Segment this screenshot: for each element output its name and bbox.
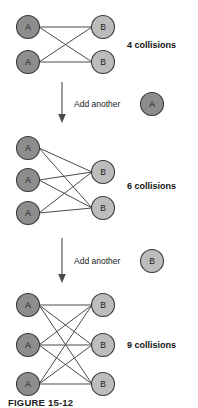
panel-6-collisions: A A A B B 6 collisions bbox=[17, 137, 177, 225]
transition-add-a: Add another A bbox=[58, 82, 163, 123]
node-b-1-2: B bbox=[92, 51, 115, 74]
node-label: B bbox=[100, 203, 106, 213]
node-label: A bbox=[25, 143, 31, 153]
node-label: A bbox=[25, 57, 31, 67]
node-label: B bbox=[100, 57, 106, 67]
edge-group-panel-1 bbox=[39, 27, 92, 62]
node-b-3-3: B bbox=[92, 373, 115, 396]
node-a-1-1: A bbox=[17, 16, 40, 39]
node-a-1-2: A bbox=[17, 51, 40, 74]
node-label: A bbox=[25, 300, 31, 310]
collisions-label-panel-1: 4 collisions bbox=[127, 40, 176, 50]
node-label: A bbox=[25, 379, 31, 389]
node-label: B bbox=[100, 300, 106, 310]
node-label: A bbox=[149, 99, 155, 109]
node-label: A bbox=[25, 22, 31, 32]
node-a-2-2: A bbox=[17, 169, 40, 192]
edge-group-panel-2 bbox=[39, 148, 92, 213]
transition-label-add-a: Add another bbox=[74, 99, 120, 109]
figure-caption: FIGURE 15-12 bbox=[8, 397, 73, 408]
collisions-label-panel-3: 9 collisions bbox=[127, 340, 176, 350]
node-label: B bbox=[100, 379, 106, 389]
node-b-3-2: B bbox=[92, 334, 115, 357]
transition-add-b: Add another B bbox=[58, 238, 163, 283]
node-label: A bbox=[25, 340, 31, 350]
node-label: A bbox=[25, 208, 31, 218]
node-label: B bbox=[100, 22, 106, 32]
node-label: B bbox=[100, 167, 106, 177]
node-b-2-1: B bbox=[92, 161, 115, 184]
transition-label-add-b: Add another bbox=[74, 256, 120, 266]
collisions-label-panel-2: 6 collisions bbox=[127, 181, 176, 191]
node-b-2-2: B bbox=[92, 197, 115, 220]
edge-group-panel-3 bbox=[39, 305, 92, 384]
node-a-3-1: A bbox=[17, 294, 40, 317]
node-a-2-3: A bbox=[17, 202, 40, 225]
figure-container: A A B B 4 collisions Add another bbox=[0, 0, 198, 408]
node-label: A bbox=[25, 175, 31, 185]
floating-node-a: A bbox=[141, 93, 164, 116]
node-a-2-1: A bbox=[17, 137, 40, 160]
collision-diagram: A A B B 4 collisions Add another bbox=[0, 0, 198, 408]
node-label: B bbox=[149, 256, 155, 266]
node-a-3-2: A bbox=[17, 334, 40, 357]
panel-9-collisions: A A A B B B 9 collisions bbox=[17, 294, 177, 396]
floating-node-b: B bbox=[141, 250, 164, 273]
node-label: B bbox=[100, 340, 106, 350]
node-a-3-3: A bbox=[17, 373, 40, 396]
node-b-1-1: B bbox=[92, 16, 115, 39]
node-b-3-1: B bbox=[92, 294, 115, 317]
panel-4-collisions: A A B B 4 collisions bbox=[17, 16, 177, 74]
